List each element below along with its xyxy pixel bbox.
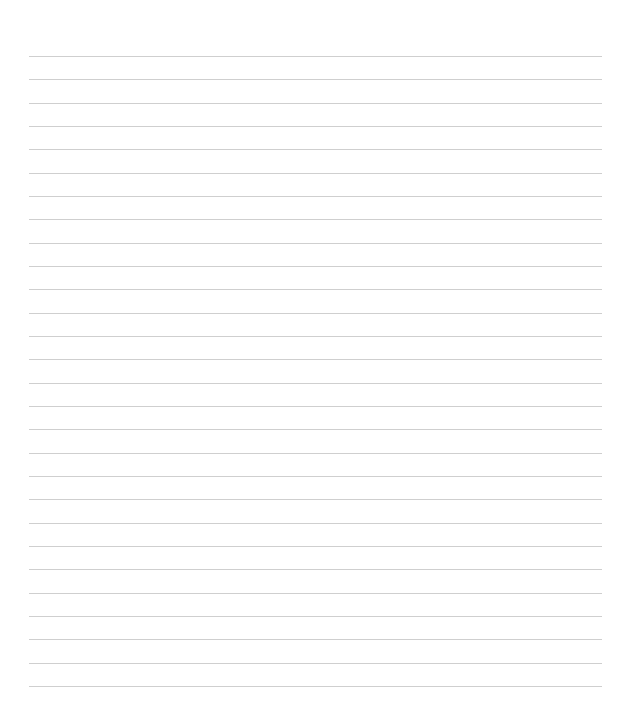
ruled-line xyxy=(29,663,602,664)
ruled-line xyxy=(29,686,602,687)
ruled-line xyxy=(29,336,602,337)
ruled-line xyxy=(29,103,602,104)
ruled-line xyxy=(29,196,602,197)
ruled-line xyxy=(29,523,602,524)
ruled-line xyxy=(29,453,602,454)
ruled-line xyxy=(29,593,602,594)
ruled-line xyxy=(29,173,602,174)
ruled-line xyxy=(29,476,602,477)
ruled-line xyxy=(29,429,602,430)
ruled-line xyxy=(29,383,602,384)
lined-paper-page xyxy=(0,0,625,715)
ruled-line xyxy=(29,79,602,80)
ruled-line xyxy=(29,313,602,314)
ruled-line xyxy=(29,56,602,57)
ruled-line xyxy=(29,639,602,640)
ruled-line xyxy=(29,616,602,617)
ruled-line xyxy=(29,266,602,267)
ruled-line xyxy=(29,359,602,360)
ruled-line xyxy=(29,219,602,220)
ruled-line xyxy=(29,569,602,570)
ruled-line xyxy=(29,126,602,127)
ruled-line xyxy=(29,149,602,150)
ruled-line xyxy=(29,289,602,290)
ruled-line xyxy=(29,546,602,547)
ruled-line xyxy=(29,406,602,407)
ruled-line xyxy=(29,243,602,244)
ruled-line xyxy=(29,499,602,500)
